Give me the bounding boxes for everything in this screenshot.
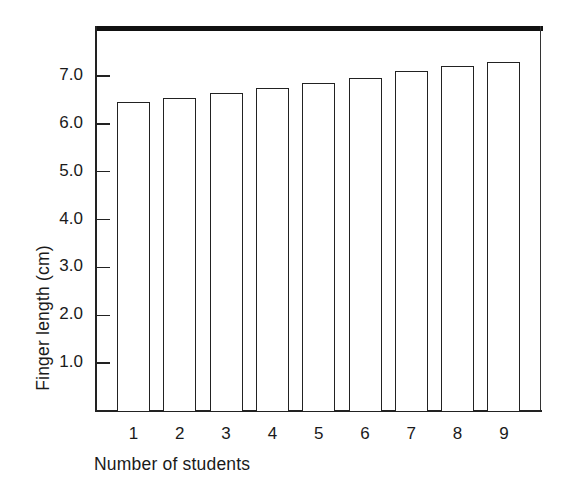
y-tick-label: 5.0: [23, 162, 83, 180]
x-tick-label: 9: [488, 425, 520, 443]
y-axis-title: Finger length (cm): [33, 245, 53, 391]
y-tick-label: 7.0: [23, 66, 83, 84]
x-tick-label: 8: [442, 425, 474, 443]
y-tick-label: 4.0: [23, 210, 83, 228]
x-axis-title: Number of students: [94, 454, 250, 474]
bar-student-5: [302, 83, 335, 411]
top-border-rule: [95, 26, 543, 31]
bar-student-1: [117, 102, 150, 411]
y-tick-label: 1.0: [23, 353, 83, 371]
x-tick-label: 1: [118, 425, 150, 443]
y-tick-label: 6.0: [23, 114, 83, 132]
x-tick-label: 6: [349, 425, 381, 443]
x-tick-label: 5: [303, 425, 335, 443]
y-tick-label: 2.0: [23, 305, 83, 323]
y-tick-mark: [96, 362, 110, 364]
y-tick-mark: [96, 75, 110, 77]
bar-student-2: [163, 98, 196, 411]
bar-student-9: [487, 62, 520, 411]
y-tick-mark: [96, 123, 110, 125]
bar-student-4: [256, 88, 289, 411]
bar-student-8: [441, 66, 474, 411]
bar-chart: 1.02.03.04.05.06.07.0 123456789 Number o…: [0, 0, 565, 499]
right-frame-line: [540, 26, 541, 412]
y-tick-mark: [96, 171, 110, 173]
y-tick-mark: [96, 315, 110, 317]
bar-student-6: [349, 78, 382, 411]
y-tick-label: 3.0: [23, 257, 83, 275]
y-tick-mark: [96, 267, 110, 269]
bar-student-7: [395, 71, 428, 411]
x-tick-label: 2: [164, 425, 196, 443]
x-tick-label: 3: [210, 425, 242, 443]
x-tick-label: 7: [395, 425, 427, 443]
x-tick-label: 4: [256, 425, 288, 443]
bar-student-3: [210, 93, 243, 411]
y-tick-mark: [96, 219, 110, 221]
